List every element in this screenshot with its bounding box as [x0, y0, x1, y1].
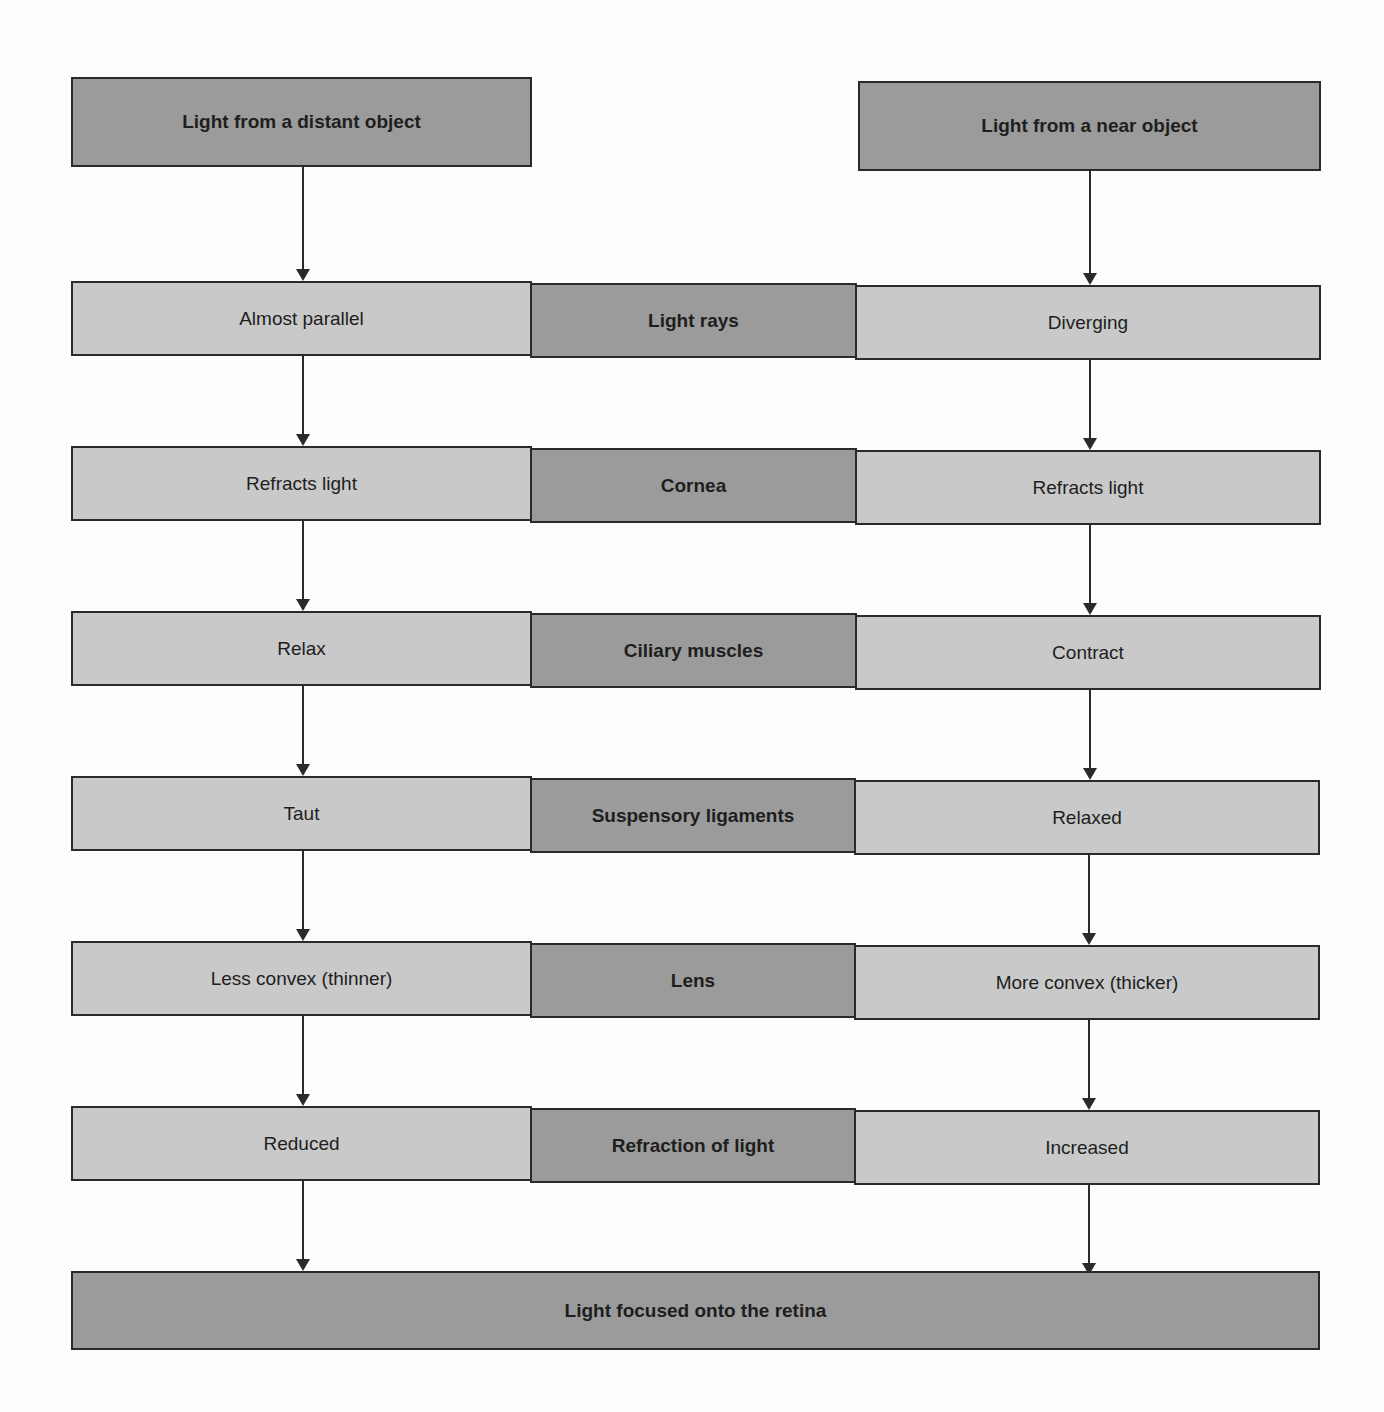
row-suspensory-near: Relaxed	[854, 780, 1320, 855]
row-cornea-near: Refracts light	[855, 450, 1321, 525]
source-near-label: Light from a near object	[981, 115, 1197, 137]
row-suspensory-factor: Suspensory ligaments	[530, 778, 856, 853]
factor-label: Cornea	[661, 475, 726, 497]
arrow-down-icon	[302, 851, 304, 939]
row-lens-distant: Less convex (thinner)	[71, 941, 532, 1016]
factor-label: Light rays	[648, 310, 739, 332]
cell-text: Refracts light	[1033, 477, 1144, 499]
cell-text: Relaxed	[1052, 807, 1122, 829]
row-lens-factor: Lens	[530, 943, 856, 1018]
arrow-down-icon	[1088, 855, 1090, 943]
arrow-down-icon	[302, 521, 304, 609]
cell-text: Reduced	[263, 1133, 339, 1155]
arrow-down-icon	[302, 1181, 304, 1269]
row-cornea-factor: Cornea	[530, 448, 857, 523]
cell-text: Increased	[1045, 1137, 1128, 1159]
cell-text: Contract	[1052, 642, 1124, 664]
source-distant-object: Light from a distant object	[71, 77, 532, 167]
cell-text: Almost parallel	[239, 308, 364, 330]
row-light-rays-near: Diverging	[855, 285, 1321, 360]
row-ciliary-distant: Relax	[71, 611, 532, 686]
row-refraction-distant: Reduced	[71, 1106, 532, 1181]
row-light-rays-distant: Almost parallel	[71, 281, 532, 356]
row-ciliary-near: Contract	[855, 615, 1321, 690]
source-near-object: Light from a near object	[858, 81, 1321, 171]
outcome-label: Light focused onto the retina	[565, 1300, 827, 1322]
row-ciliary-factor: Ciliary muscles	[530, 613, 857, 688]
cell-text: Refracts light	[246, 473, 357, 495]
cell-text: Diverging	[1048, 312, 1128, 334]
source-distant-label: Light from a distant object	[182, 111, 421, 133]
arrow-down-icon	[1089, 171, 1091, 283]
arrow-down-icon	[1089, 690, 1091, 778]
row-cornea-distant: Refracts light	[71, 446, 532, 521]
cell-text: Less convex (thinner)	[211, 968, 393, 990]
row-refraction-near: Increased	[854, 1110, 1320, 1185]
arrow-down-icon	[1088, 1185, 1090, 1273]
row-lens-near: More convex (thicker)	[854, 945, 1320, 1020]
cell-text: Relax	[277, 638, 326, 660]
arrow-down-icon	[302, 356, 304, 444]
factor-label: Suspensory ligaments	[592, 805, 795, 827]
cell-text: More convex (thicker)	[996, 972, 1179, 994]
arrow-down-icon	[302, 167, 304, 279]
arrow-down-icon	[1088, 1020, 1090, 1108]
factor-label: Ciliary muscles	[624, 640, 763, 662]
outcome-box: Light focused onto the retina	[71, 1271, 1320, 1350]
factor-label: Lens	[671, 970, 715, 992]
row-light-rays-factor: Light rays	[530, 283, 857, 358]
arrow-down-icon	[1089, 525, 1091, 613]
row-refraction-factor: Refraction of light	[530, 1108, 856, 1183]
cell-text: Taut	[284, 803, 320, 825]
row-suspensory-distant: Taut	[71, 776, 532, 851]
arrow-down-icon	[302, 686, 304, 774]
arrow-down-icon	[1089, 360, 1091, 448]
arrow-down-icon	[302, 1016, 304, 1104]
factor-label: Refraction of light	[612, 1135, 775, 1157]
